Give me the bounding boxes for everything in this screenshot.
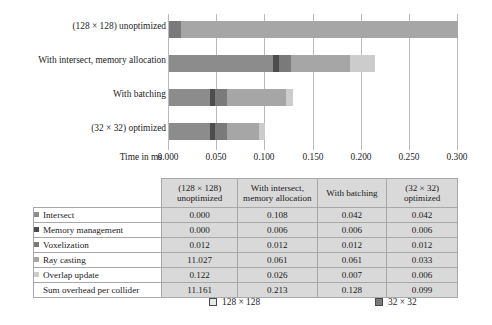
table-header-with-intersect: With intersect, memory allocation <box>238 179 317 208</box>
bar-segment-voxelization <box>169 21 181 38</box>
x-tick-label: 0.300 <box>434 152 480 162</box>
cell-value: 0.006 <box>387 268 458 283</box>
x-tick-label: 0.250 <box>386 152 432 162</box>
category-label: With intersect, memory allocation <box>6 55 166 66</box>
bottom-legend: 128 × 128 32 × 32 <box>33 297 458 313</box>
table-header-unoptimized-128: (128 × 128) unoptimized <box>162 179 238 208</box>
row-label-text: Memory management <box>43 225 123 235</box>
cell-value: 0.061 <box>238 253 317 268</box>
bar-segment-overlap-update <box>350 55 375 72</box>
cell-value: 0.042 <box>317 208 387 223</box>
bar-segment-overlap-update <box>259 123 265 140</box>
row-label-memory-management: Memory management <box>34 223 162 238</box>
cell-value-total: 0.099 <box>387 283 458 298</box>
cell-value: 0.026 <box>238 268 317 283</box>
category-label: (128 × 128) unoptimized <box>6 21 166 32</box>
series-marker-icon <box>34 212 39 217</box>
cell-value: 0.000 <box>162 208 238 223</box>
table-row-total: Sum overhead per collider 11.161 0.213 0… <box>34 283 458 298</box>
legend-item-32: 32 × 32 <box>375 297 417 307</box>
bar-segment-voxelization <box>215 123 227 140</box>
bar-segment-ray-casting <box>181 21 458 38</box>
cell-value-total: 0.128 <box>317 283 387 298</box>
cell-value: 0.007 <box>317 268 387 283</box>
row-label-text: Intersect <box>43 210 74 220</box>
table-row: Memory management 0.000 0.006 0.006 0.00… <box>34 223 458 238</box>
row-label-ray-casting: Ray casting <box>34 253 162 268</box>
table-corner-cell <box>34 179 162 208</box>
bar-segment-overlap-update <box>286 89 293 106</box>
series-marker-icon <box>34 227 39 232</box>
bar-segment-ray-casting <box>227 123 259 140</box>
legend-swatch-icon <box>209 298 217 306</box>
series-marker-icon <box>34 257 39 262</box>
cell-value: 0.122 <box>162 268 238 283</box>
row-label-text: Overlap update <box>43 270 99 280</box>
header-line-2: unoptimized <box>162 193 237 204</box>
cell-value: 0.006 <box>238 223 317 238</box>
cell-value: 0.012 <box>162 238 238 253</box>
bar-optimized-32 <box>169 123 265 140</box>
cell-value: 0.000 <box>162 223 238 238</box>
header-line-1: With intersect, <box>238 183 316 194</box>
legend-label: 128 × 128 <box>222 297 260 307</box>
bar-segment-ray-casting <box>291 55 350 72</box>
row-label-sum-overhead: Sum overhead per collider <box>34 283 162 298</box>
plot-area <box>168 14 458 150</box>
bar-with-batching <box>169 89 293 106</box>
bar-unoptimized-128 <box>169 21 458 38</box>
x-tick-label: 0.000 <box>145 152 191 162</box>
table-header-row: (128 × 128) unoptimized With intersect, … <box>34 179 458 208</box>
series-marker-icon <box>34 242 39 247</box>
table-row: Intersect 0.000 0.108 0.042 0.042 <box>34 208 458 223</box>
row-label-text: Ray casting <box>43 255 86 265</box>
header-line-1: (128 × 128) <box>162 183 237 194</box>
stacked-bar-chart: (128 × 128) unoptimized With intersect, … <box>0 0 492 176</box>
category-label: (32 × 32) optimized <box>6 123 166 134</box>
table-row: Voxelization 0.012 0.012 0.012 0.012 <box>34 238 458 253</box>
cell-value: 0.042 <box>387 208 458 223</box>
x-tick-label: 0.200 <box>338 152 384 162</box>
x-tick-label: 0.050 <box>193 152 239 162</box>
cell-value: 0.033 <box>387 253 458 268</box>
series-marker-icon <box>34 272 39 277</box>
bar-segment-voxelization <box>279 55 291 72</box>
legend-label: 32 × 32 <box>388 297 417 307</box>
bar-segment-intersect <box>169 55 273 72</box>
row-label-text: Voxelization <box>43 240 89 250</box>
cell-value: 0.006 <box>317 223 387 238</box>
bar-segment-voxelization <box>215 89 227 106</box>
x-tick-label: 0.100 <box>241 152 287 162</box>
bar-segment-ray-casting <box>227 89 286 106</box>
row-label-voxelization: Voxelization <box>34 238 162 253</box>
row-label-overlap-update: Overlap update <box>34 268 162 283</box>
table-row: Overlap update 0.122 0.026 0.007 0.006 <box>34 268 458 283</box>
x-tick-label: 0.150 <box>290 152 336 162</box>
cell-value: 0.012 <box>317 238 387 253</box>
cell-value: 0.061 <box>317 253 387 268</box>
cell-value: 0.012 <box>387 238 458 253</box>
bar-segment-intersect <box>169 123 210 140</box>
table-row: Ray casting 11.027 0.061 0.061 0.033 <box>34 253 458 268</box>
table-header-optimized-32: (32 × 32) optimized <box>387 179 458 208</box>
cell-value: 11.027 <box>162 253 238 268</box>
data-table: (128 × 128) unoptimized With intersect, … <box>33 178 458 298</box>
legend-swatch-icon <box>375 298 383 306</box>
legend-item-128: 128 × 128 <box>209 297 260 307</box>
table-header-with-batching: With batching <box>317 179 387 208</box>
row-label-intersect: Intersect <box>34 208 162 223</box>
cell-value-total: 0.213 <box>238 283 317 298</box>
header-line-1: (32 × 32) optimized <box>387 183 457 204</box>
cell-value-total: 11.161 <box>162 283 238 298</box>
cell-value: 0.006 <box>387 223 458 238</box>
bar-with-intersect-memory-allocation <box>169 55 375 72</box>
bar-segment-intersect <box>169 89 210 106</box>
header-line-1: With batching <box>318 188 387 199</box>
cell-value: 0.012 <box>238 238 317 253</box>
category-label: With batching <box>6 89 166 100</box>
cell-value: 0.108 <box>238 208 317 223</box>
header-line-2: memory allocation <box>238 193 316 204</box>
row-label-text: Sum overhead per collider <box>43 285 139 295</box>
